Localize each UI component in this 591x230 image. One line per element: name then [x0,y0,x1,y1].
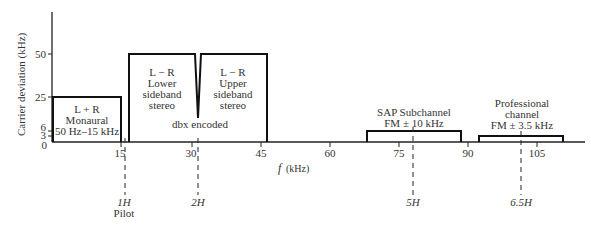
pro-label-3: FM ± 3.5 kHz [491,119,553,131]
x-tick-90: 90 [463,147,475,159]
x-tick-30: 30 [186,147,198,159]
marker-5h-label: 5H [406,196,421,208]
lsb-label-4: stereo [149,99,176,111]
block-sap [367,131,461,142]
dbx-label: dbx encoded [172,118,228,130]
y-tick-0: 0 [42,139,48,151]
sap-label-2: FM ± 10 kHz [384,117,444,129]
marker-6-5h-label: 6.5H [510,196,533,208]
mono-label-3: 50 Hz–15 kHz [55,125,119,137]
y-tick-50: 50 [35,48,47,60]
x-tick-45: 45 [256,147,268,159]
marker-pilot-label: Pilot [114,207,135,219]
y-tick-25: 25 [35,91,47,103]
x-tick-75: 75 [394,147,406,159]
marker-2h-label: 2H [191,196,206,208]
fm-stereo-spectrum-diagram: Carrier deviation (kHz) 50 25 6 3 0 15 3… [0,0,591,230]
y-axis-label: Carrier deviation (kHz) [15,32,28,136]
x-tick-15: 15 [115,147,127,159]
x-axis-label-f: f [278,161,283,175]
x-tick-105: 105 [529,147,546,159]
x-axis-label-unit: (kHz) [286,163,309,175]
x-tick-60: 60 [325,147,337,159]
usb-label-4: stereo [220,99,247,111]
